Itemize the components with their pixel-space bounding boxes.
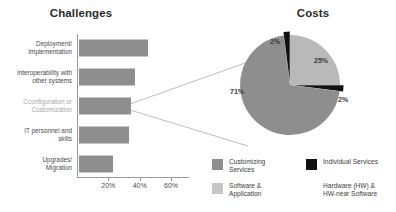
bar-upgrades[interactable] (79, 156, 113, 173)
bar-label-it-personnel: IT personnel and skills (0, 127, 72, 143)
pie-label-hardware: 2% (270, 38, 280, 45)
legend-item-individual-services[interactable]: Individual Services (306, 158, 378, 170)
x-tick-mark (171, 178, 172, 181)
bar-label-line1: Cconfiguration or (23, 98, 72, 105)
challenges-plot-area: Deployment/ Implementation Interoperabil… (0, 30, 198, 180)
legend-item-customizing-services[interactable]: Customizing Services (212, 158, 265, 175)
legend-label-line2: HW-near Software (323, 190, 377, 197)
legend-swatch-software (212, 183, 223, 194)
bar-label-line2: Customization (32, 106, 73, 113)
bar-label-line2: Migration (46, 164, 72, 171)
legend-item-hardware[interactable]: Hardware (HW) & HW-near Software (306, 182, 377, 199)
bar-row-it-personnel: IT personnel and skills (0, 121, 198, 149)
bar-label-line1: Interoperability with (17, 69, 72, 76)
legend-item-software-application[interactable]: Software & Application (212, 182, 261, 199)
bar-it-personnel[interactable] (79, 127, 129, 144)
bar-label-deployment: Deployment/ Implementation (0, 40, 72, 56)
pie-label-customizing: 71% (230, 88, 244, 95)
costs-pie-area: 25% 2% 71% 2% (228, 26, 358, 144)
x-tick-mark (140, 178, 141, 181)
bar-row-deployment: Deployment/ Implementation (0, 34, 198, 62)
legend-label-customizing: Customizing Services (229, 158, 265, 175)
pie-label-software: 25% (314, 57, 328, 64)
x-tick-mark (108, 178, 109, 181)
bar-label-line1: Upgrades/ (43, 156, 73, 163)
legend-swatch-individual (306, 159, 317, 170)
pie-chart (228, 26, 358, 144)
bar-row-interoperability: Interoperability with other systems (0, 63, 198, 91)
bar-label-line2: skills (58, 135, 72, 142)
legend-label-line2: Services (229, 166, 254, 173)
legend-label-line1: Software & (229, 182, 261, 189)
x-tick-label: 60% (164, 182, 178, 189)
legend-swatch-customizing (212, 159, 223, 170)
bar-label-line2: other systems (32, 77, 72, 84)
bar-configuration[interactable] (79, 98, 131, 115)
bar-interoperability[interactable] (79, 69, 135, 86)
legend-label-line1: Individual Services (323, 158, 378, 165)
bar-deployment[interactable] (79, 40, 148, 57)
costs-chart-panel: Costs 25% 2% 71% 2% Customizing Services… (198, 0, 396, 212)
bar-label-upgrades: Upgrades/ Migration (0, 156, 72, 172)
bar-label-line1: Deployment/ (36, 40, 72, 47)
bar-label-configuration: Cconfiguration or Customization (0, 98, 72, 114)
bar-label-interoperability: Interoperability with other systems (0, 69, 72, 85)
legend-label-line1: Customizing (229, 158, 265, 165)
costs-chart-title: Costs (214, 7, 396, 19)
bar-label-line2: Implementation (28, 48, 72, 55)
pie-label-individual: 2% (338, 96, 348, 103)
legend-label-software: Software & Application (229, 182, 261, 199)
legend-label-individual: Individual Services (323, 158, 378, 166)
challenges-chart-title: Challenges (0, 7, 180, 19)
x-tick-label: 40% (133, 182, 147, 189)
legend-label-line2: Application (229, 190, 261, 197)
legend-swatch-hardware (306, 183, 317, 194)
challenges-chart-panel: Challenges Deployment/ Implementation In… (0, 0, 198, 212)
legend-label-hardware: Hardware (HW) & HW-near Software (323, 182, 377, 199)
bar-row-upgrades: Upgrades/ Migration (0, 150, 198, 178)
legend-label-line1: Hardware (HW) & (323, 182, 375, 189)
bar-row-configuration: Cconfiguration or Customization (0, 92, 198, 120)
x-tick-label: 20% (101, 182, 115, 189)
bar-label-line1: IT personnel and (24, 127, 72, 134)
costs-legend: Customizing Services Software & Applicat… (206, 158, 396, 208)
